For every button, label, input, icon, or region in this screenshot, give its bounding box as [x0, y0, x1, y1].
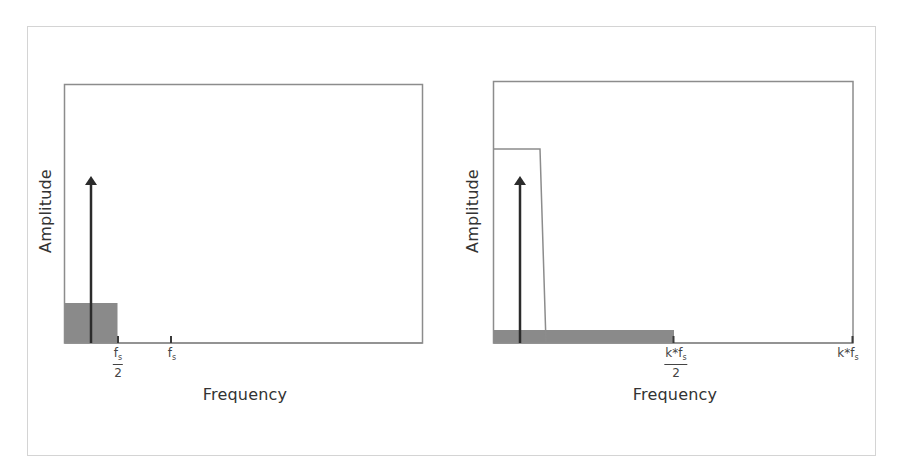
right-axes-box	[494, 82, 854, 344]
spectrum-diagram	[0, 0, 898, 470]
right-x-axis-label: Frequency	[633, 385, 717, 404]
left-tick-label-fs-half: fs 2	[113, 347, 123, 379]
left-y-axis-label: Amplitude	[36, 169, 55, 253]
right-spectrum-plot	[494, 82, 854, 344]
right-signal-arrow-icon	[514, 176, 526, 343]
left-spectrum-plot	[65, 85, 423, 344]
right-y-axis-label: Amplitude	[463, 169, 482, 253]
right-tick-label-kfs: k*fs	[837, 347, 858, 362]
left-tick-label-fs: fs	[168, 347, 176, 362]
right-tick-label-kfs-half: k*fs 2	[664, 347, 687, 379]
left-x-axis-label: Frequency	[203, 385, 287, 404]
left-axes-box	[65, 85, 423, 344]
